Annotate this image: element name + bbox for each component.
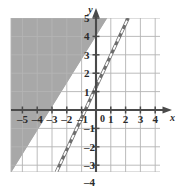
- coordinate-plane: –5 –4 –3 –2 –1 1 2 3 4 5 4 3 2 1 –1 –2 –…: [0, 0, 180, 186]
- y-tick-label-4: 4: [84, 30, 90, 42]
- x-tick-label-3: 3: [138, 113, 144, 125]
- x-tick-label-2: 2: [123, 113, 129, 125]
- y-axis-label: y: [87, 4, 93, 15]
- x-tick-label-4: 4: [152, 113, 158, 125]
- x-tick-label--5: –5: [16, 113, 29, 125]
- y-tick-label--4: –4: [83, 176, 96, 187]
- y-tick-label--3: –3: [83, 159, 96, 171]
- linear-inequality-graph: –5 –4 –3 –2 –1 1 2 3 4 5 4 3 2 1 –1 –2 –…: [0, 0, 180, 186]
- x-axis-label: x: [169, 112, 175, 123]
- x-tick-label-1: 1: [108, 113, 114, 125]
- y-tick-label--1: –1: [83, 122, 95, 134]
- y-tick-label-2: 2: [84, 67, 90, 79]
- y-tick-label-1: 1: [84, 86, 90, 98]
- x-tick-label--4: –4: [31, 113, 44, 125]
- x-tick-label--3: –3: [46, 113, 59, 125]
- origin-label: 0: [100, 113, 105, 124]
- y-tick-label-3: 3: [84, 49, 90, 61]
- x-tick-label--2: –2: [60, 113, 73, 125]
- y-tick-label--2: –2: [83, 141, 96, 153]
- y-axis-arrow: [92, 8, 99, 18]
